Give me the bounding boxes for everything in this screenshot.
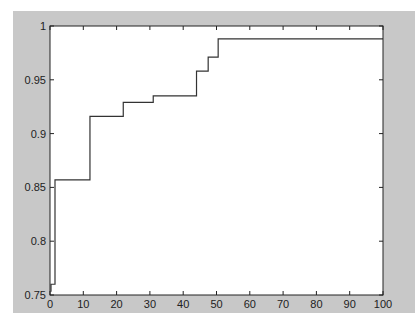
x-tick-label: 60 xyxy=(244,298,256,310)
x-tick-label: 100 xyxy=(374,298,392,310)
y-tick-label: 0.8 xyxy=(31,235,46,247)
x-tick-label: 20 xyxy=(110,298,122,310)
x-tick-label: 50 xyxy=(210,298,222,310)
x-tick-label: 40 xyxy=(177,298,189,310)
x-tick-label: 30 xyxy=(144,298,156,310)
y-tick-label: 0.75 xyxy=(25,289,46,301)
x-tick-label: 10 xyxy=(77,298,89,310)
step-chart: 01020304050607080901000.750.80.850.90.95… xyxy=(0,0,415,324)
y-tick-label: 1 xyxy=(40,20,46,32)
y-tick-label: 0.95 xyxy=(25,74,46,86)
x-tick-label: 80 xyxy=(310,298,322,310)
plot-area xyxy=(50,26,383,295)
x-tick-label: 70 xyxy=(277,298,289,310)
y-tick-label: 0.85 xyxy=(25,181,46,193)
y-tick-label: 0.9 xyxy=(31,128,46,140)
x-tick-label: 90 xyxy=(344,298,356,310)
x-tick-label: 0 xyxy=(47,298,53,310)
